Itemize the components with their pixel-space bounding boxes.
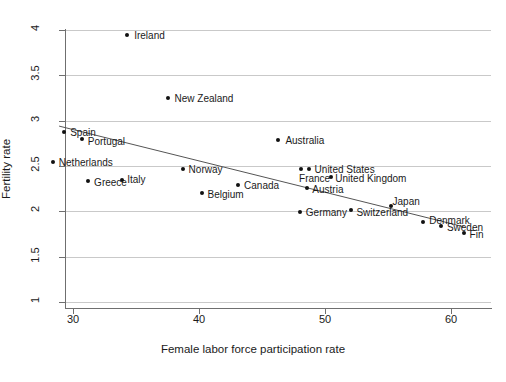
x-tick-label: 50 — [319, 313, 331, 325]
gridline — [66, 121, 491, 122]
data-point-label: Switzerland — [356, 207, 408, 218]
y-tick — [59, 121, 65, 122]
gridline — [66, 257, 491, 258]
data-point — [120, 178, 124, 182]
data-point — [276, 138, 280, 142]
data-point — [86, 179, 90, 183]
y-tick — [59, 211, 65, 212]
data-point — [307, 167, 311, 171]
data-point-label: United Kingdom — [335, 172, 406, 183]
data-point-label: Fin — [470, 229, 484, 240]
y-tick-label: 3 — [29, 106, 41, 132]
data-point-label: Japan — [393, 195, 420, 206]
data-point-label: Belgium — [208, 189, 244, 200]
data-point — [236, 183, 240, 187]
scatter-chart: 11.522.533.54 30405060 IrelandNew Zealan… — [0, 0, 506, 382]
gridline — [66, 166, 491, 167]
data-point — [62, 130, 66, 134]
gridline — [66, 302, 491, 303]
y-tick — [59, 75, 65, 76]
data-point — [421, 220, 425, 224]
data-point — [125, 33, 129, 37]
data-point-label: Ireland — [134, 30, 165, 41]
data-point-label: Netherlands — [59, 157, 113, 168]
data-point-label: Australia — [285, 134, 324, 145]
data-point — [166, 96, 170, 100]
y-axis-line — [65, 29, 66, 309]
data-point — [305, 186, 309, 190]
data-point — [462, 231, 466, 235]
data-point-label: Germany — [306, 207, 347, 218]
data-point-label: Norway — [189, 163, 223, 174]
x-axis-title: Female labor force participation rate — [0, 343, 506, 355]
data-point — [298, 210, 302, 214]
y-tick-label: 2 — [29, 196, 41, 222]
y-tick-label: 3.5 — [29, 60, 41, 86]
gridline — [66, 30, 491, 31]
gridline — [66, 75, 491, 76]
y-tick-label: 4 — [29, 15, 41, 41]
data-point — [329, 175, 333, 179]
data-point — [181, 167, 185, 171]
y-tick — [59, 302, 65, 303]
x-tick-label: 60 — [445, 313, 457, 325]
y-tick-label: 2.5 — [29, 151, 41, 177]
data-point-label: New Zealand — [175, 93, 234, 104]
data-point-label: Portugal — [88, 135, 125, 146]
x-tick-label: 30 — [67, 313, 79, 325]
data-point-label: Canada — [244, 180, 279, 191]
data-point — [51, 160, 55, 164]
data-point — [80, 137, 84, 141]
data-point-label: Italy — [127, 173, 145, 184]
y-tick-label: 1 — [29, 287, 41, 313]
y-tick-label: 1.5 — [29, 242, 41, 268]
data-point — [349, 208, 353, 212]
y-axis-title: Fertility rate — [0, 139, 12, 199]
x-tick-label: 40 — [193, 313, 205, 325]
y-tick — [59, 257, 65, 258]
y-tick — [59, 30, 65, 31]
data-point — [439, 224, 443, 228]
data-point — [200, 191, 204, 195]
data-point — [299, 167, 303, 171]
gridline — [66, 211, 491, 212]
data-point-label: Austria — [312, 183, 343, 194]
x-axis-line — [65, 308, 492, 309]
